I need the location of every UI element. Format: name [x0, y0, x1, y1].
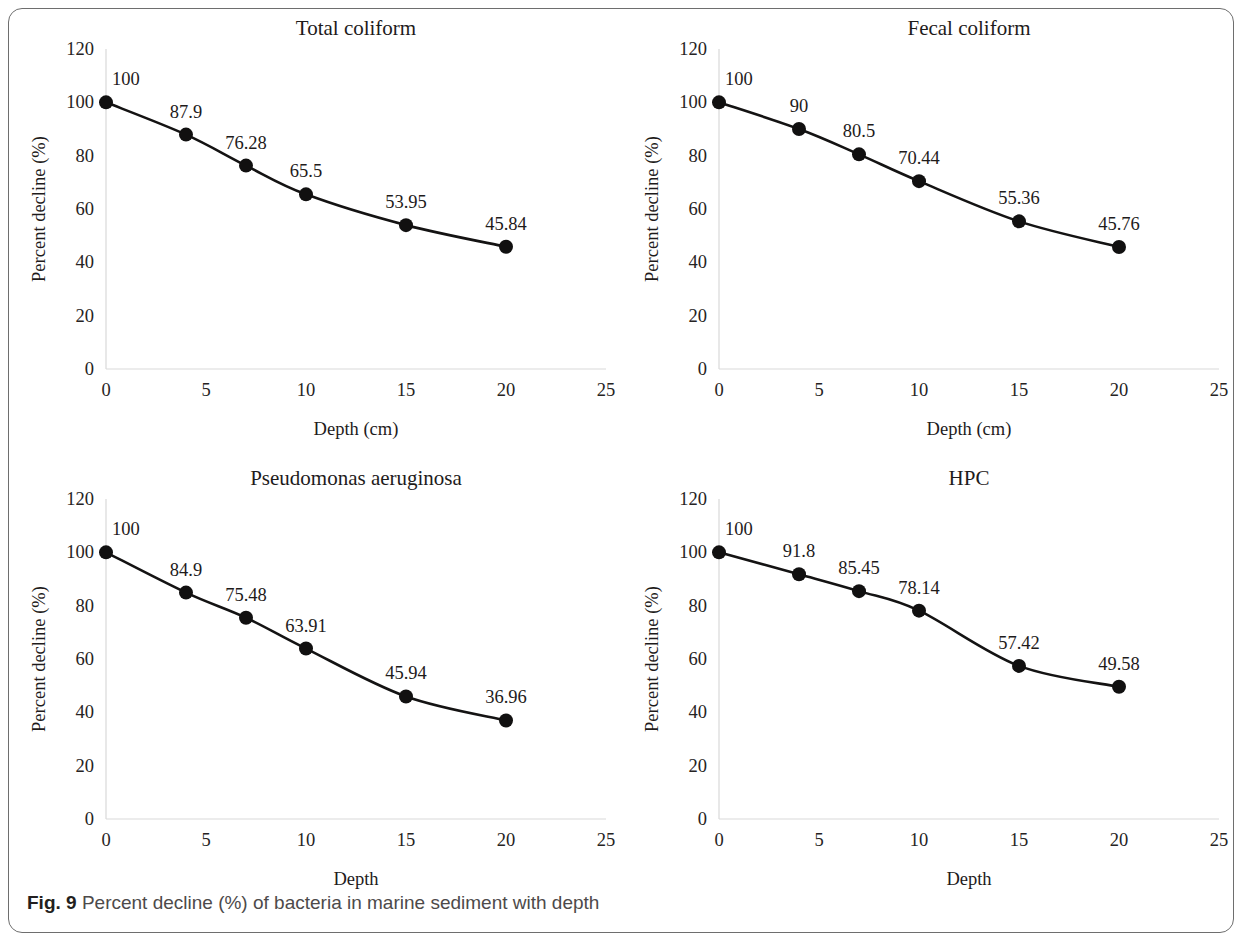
- axes: [106, 499, 606, 819]
- chart-panel-total-coliform: Total coliform0204060801001200510152025D…: [9, 9, 622, 443]
- y-axis-title: Percent decline (%): [29, 586, 50, 732]
- series-points: 10084.975.4863.9145.9436.96: [99, 519, 527, 727]
- data-point-label: 78.14: [898, 578, 940, 598]
- data-point: [399, 218, 413, 232]
- data-point-label: 100: [725, 519, 753, 539]
- y-tick-label: 40: [689, 252, 708, 272]
- line-chart: Total coliform0204060801001200510152025D…: [9, 9, 622, 443]
- data-point-label: 100: [112, 69, 140, 89]
- data-point: [912, 174, 926, 188]
- x-tick-label: 0: [714, 380, 723, 400]
- data-point-label: 49.58: [1098, 654, 1140, 674]
- line-chart: Pseudomonas aeruginosa020406080100120051…: [9, 459, 622, 893]
- data-point-label: 70.44: [898, 148, 940, 168]
- y-axis-title: Percent decline (%): [642, 586, 663, 732]
- data-point: [179, 128, 193, 142]
- y-tick-label: 0: [698, 359, 707, 379]
- data-point-label: 65.5: [290, 161, 322, 181]
- x-tick-label: 20: [1110, 830, 1129, 850]
- y-axis-ticks: 020406080100120: [679, 39, 707, 379]
- data-point-label: 100: [725, 69, 753, 89]
- x-tick-label: 25: [1210, 830, 1229, 850]
- data-point-label: 45.84: [485, 214, 527, 234]
- data-point: [1012, 214, 1026, 228]
- x-axis-title: Depth (cm): [927, 419, 1012, 440]
- x-tick-label: 0: [101, 380, 110, 400]
- y-tick-label: 20: [76, 756, 95, 776]
- chart-title: Total coliform: [296, 16, 416, 40]
- chart-title-group: Fecal coliform: [907, 16, 1030, 40]
- figure-frame: Total coliform0204060801001200510152025D…: [8, 8, 1234, 933]
- y-tick-label: 80: [76, 596, 95, 616]
- x-tick-label: 15: [397, 830, 416, 850]
- x-axis-ticks: 0510152025: [714, 380, 1228, 400]
- y-tick-label: 20: [76, 306, 95, 326]
- axes: [106, 49, 606, 369]
- y-tick-label: 0: [698, 809, 707, 829]
- y-tick-label: 20: [689, 756, 708, 776]
- data-point-label: 100: [112, 519, 140, 539]
- y-axis-ticks: 020406080100120: [66, 39, 94, 379]
- data-point: [712, 95, 726, 109]
- y-tick-label: 0: [85, 809, 94, 829]
- data-point: [499, 713, 513, 727]
- data-point-label: 63.91: [285, 616, 327, 636]
- y-tick-label: 20: [689, 306, 708, 326]
- x-tick-label: 10: [297, 830, 316, 850]
- data-point-label: 45.94: [385, 663, 427, 683]
- x-axis-title: Depth (cm): [314, 419, 399, 440]
- y-axis-ticks: 020406080100120: [66, 489, 94, 829]
- chart-title: HPC: [949, 466, 990, 490]
- data-point: [1112, 240, 1126, 254]
- data-point: [299, 187, 313, 201]
- y-tick-label: 120: [679, 489, 707, 509]
- y-tick-label: 80: [76, 146, 95, 166]
- data-point-label: 90: [790, 96, 809, 116]
- y-tick-label: 120: [679, 39, 707, 59]
- line-chart: Fecal coliform0204060801001200510152025D…: [622, 9, 1235, 443]
- series-line: [106, 552, 506, 720]
- y-axis-ticks: 020406080100120: [679, 489, 707, 829]
- y-axis-title: Percent decline (%): [29, 136, 50, 282]
- data-point: [1012, 659, 1026, 673]
- data-point: [179, 586, 193, 600]
- data-point: [852, 147, 866, 161]
- data-point: [299, 642, 313, 656]
- series-points: 1009080.570.4455.3645.76: [712, 69, 1140, 254]
- y-tick-label: 0: [85, 359, 94, 379]
- y-tick-label: 40: [76, 702, 95, 722]
- chart-title-group: Total coliform: [296, 16, 416, 40]
- x-tick-label: 0: [101, 830, 110, 850]
- data-point: [99, 545, 113, 559]
- x-tick-label: 20: [1110, 380, 1129, 400]
- x-tick-label: 5: [201, 830, 210, 850]
- y-tick-label: 100: [679, 542, 707, 562]
- y-tick-label: 60: [689, 199, 708, 219]
- chart-panel-hpc: HPC0204060801001200510152025DepthPercent…: [622, 459, 1235, 893]
- x-tick-label: 20: [497, 380, 516, 400]
- data-point-label: 53.95: [385, 192, 427, 212]
- y-tick-label: 60: [689, 649, 708, 669]
- data-point-label: 80.5: [843, 121, 875, 141]
- data-point: [399, 689, 413, 703]
- y-tick-label: 100: [66, 542, 94, 562]
- chart-panel-fecal-coliform: Fecal coliform0204060801001200510152025D…: [622, 9, 1235, 443]
- x-tick-label: 5: [814, 380, 823, 400]
- y-tick-label: 60: [76, 649, 95, 669]
- x-tick-label: 10: [297, 380, 316, 400]
- data-point: [912, 604, 926, 618]
- x-tick-label: 10: [910, 380, 929, 400]
- data-point: [1112, 680, 1126, 694]
- chart-title-group: Pseudomonas aeruginosa: [250, 466, 462, 490]
- figure-caption: Fig. 9 Percent decline (%) of bacteria i…: [27, 892, 1235, 914]
- data-point: [712, 545, 726, 559]
- x-tick-label: 20: [497, 830, 516, 850]
- series-line: [719, 552, 1119, 686]
- figure-caption-bar: Fig. 9 Percent decline (%) of bacteria i…: [9, 878, 1235, 934]
- y-tick-label: 40: [76, 252, 95, 272]
- chart-panel-grid: Total coliform0204060801001200510152025D…: [9, 9, 1235, 878]
- x-tick-label: 0: [714, 830, 723, 850]
- x-tick-label: 5: [814, 830, 823, 850]
- x-tick-label: 25: [597, 830, 616, 850]
- data-point: [99, 95, 113, 109]
